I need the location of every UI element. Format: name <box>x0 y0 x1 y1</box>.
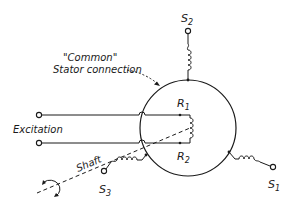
label-s2: S2 <box>181 12 193 27</box>
stator-winding-s1: S1 <box>228 151 280 193</box>
terminal-s2 <box>185 28 190 33</box>
stator-winding-s3: S3 <box>99 154 147 198</box>
label-r1: R1 <box>177 97 190 112</box>
stator-winding-s2: S2 <box>181 12 193 81</box>
terminal-excitation-bottom <box>36 140 41 145</box>
arrow-head-icon <box>154 82 160 87</box>
label-excitation: Excitation <box>13 124 63 135</box>
label-stator-connection: Stator connection <box>53 64 142 75</box>
label-s1: S1 <box>268 178 280 193</box>
rotation-arrow-icon <box>44 180 60 196</box>
rotor-coil: R1 R2 <box>177 97 193 165</box>
label-r2: R2 <box>177 150 190 165</box>
terminal-s3 <box>101 168 106 173</box>
label-s3: S3 <box>99 183 111 198</box>
common-stator-annotation: "Common" Stator connection <box>53 52 160 86</box>
label-common: "Common" <box>63 52 117 63</box>
terminal-s1 <box>270 164 275 169</box>
shaft: Shaft <box>37 128 190 197</box>
terminal-excitation-top <box>36 112 41 117</box>
synchro-diagram: S2 "Common" Stator connection Excitation… <box>0 0 290 213</box>
excitation-leads: Excitation <box>13 112 185 146</box>
